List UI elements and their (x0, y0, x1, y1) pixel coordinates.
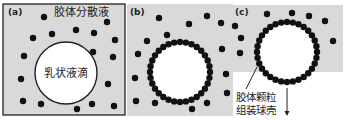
shell-particle (206, 75, 212, 81)
shell-particle (177, 99, 183, 105)
colloid-particle (164, 32, 170, 38)
shell-particle (165, 41, 171, 47)
colloid-particle (111, 103, 117, 109)
colloid-particle (204, 100, 210, 106)
panel-c: (c) 胶体颗粒 组装球壳 (232, 5, 343, 116)
shell-particle (256, 60, 262, 66)
shell-particle (254, 43, 260, 49)
shell-particle (171, 39, 177, 45)
shell-particle (295, 77, 301, 83)
panel-c-tag: (c) (235, 7, 249, 17)
panel-b-tag: (b) (130, 7, 145, 17)
colloid-particle (105, 81, 111, 87)
shell-particle (183, 98, 189, 104)
colloid-particle (237, 50, 243, 56)
colloid-particle (135, 51, 141, 57)
shell-particle (149, 80, 155, 86)
shell-particle (290, 78, 296, 84)
emulsion-droplet-label: 乳状液滴 (44, 66, 88, 80)
shell-particle (290, 19, 296, 25)
colloid-particle (238, 35, 244, 41)
shell-particle (147, 63, 153, 69)
colloid-particle (156, 15, 162, 21)
shell-particle (147, 75, 153, 81)
colloid-particle (110, 54, 116, 60)
colloid-particle (289, 10, 295, 16)
colloid-particle (186, 21, 192, 27)
shell-particle (278, 19, 284, 25)
colloid-particle (224, 90, 230, 96)
colloid-particle (152, 100, 158, 106)
shell-label-line2: 组装球壳 (236, 104, 277, 116)
colloid-particle (132, 75, 138, 81)
shell-particle (254, 49, 260, 55)
diagram-svg: (a) 胶体分散液 乳状液滴 (b) (c) 胶体颗粒 组装球壳 (0, 0, 346, 124)
shell-label-line1: 胶体颗粒 (236, 91, 277, 103)
shell-particle (207, 69, 213, 75)
shell-particle (188, 97, 194, 103)
shell-particle (171, 98, 177, 104)
colloid-particle (306, 13, 312, 19)
colloid-particle (232, 23, 238, 29)
shell-particle (205, 57, 211, 63)
colloid-particle (89, 101, 95, 107)
shell-particle (206, 63, 212, 69)
colloid-particle (41, 14, 47, 20)
colloid-particle (322, 18, 328, 24)
shell-particle (284, 79, 290, 85)
colloid-particle (144, 38, 150, 44)
colloid-particle (133, 98, 139, 104)
colloid-particle (264, 11, 270, 17)
colloid-particle (112, 37, 118, 43)
colloid-particle (74, 106, 80, 112)
shell-particle (313, 43, 319, 49)
colloid-particle (330, 38, 336, 44)
shell-particle (284, 19, 290, 25)
colloid-particle (21, 53, 27, 59)
shell-particle (147, 69, 153, 75)
colloid-particle (223, 71, 229, 77)
colloid-particle (189, 106, 195, 112)
shell-particle (314, 49, 320, 55)
colloid-particle (218, 20, 224, 26)
panel-a: (a) 胶体分散液 乳状液滴 (3, 4, 125, 115)
shell-particle (313, 55, 319, 61)
panel-b: (b) (127, 4, 233, 116)
panel-a-tag: (a) (8, 7, 22, 17)
colloid-particle (20, 98, 26, 104)
colloid-particle (219, 46, 225, 52)
shell-particle (254, 55, 260, 61)
colloid-particle (49, 31, 55, 37)
colloid-particle (91, 30, 97, 36)
figure-canvas: (a) 胶体分散液 乳状液滴 (b) (c) 胶体颗粒 组装球壳 (0, 0, 346, 124)
shell-particle (312, 37, 318, 43)
colloid-particle (73, 27, 79, 33)
shell-particle (183, 39, 189, 45)
down-arrow-icon (285, 88, 290, 116)
shell-particle (272, 21, 278, 27)
colloid-particle (30, 35, 36, 41)
colloid-particle (38, 101, 44, 107)
colloidal-dispersion-label: 胶体分散液 (54, 5, 109, 19)
colloid-particle (18, 76, 24, 82)
shell-particle (177, 39, 183, 45)
colloid-particle (204, 13, 210, 19)
shell-particle (278, 78, 284, 84)
colloid-particle (104, 19, 110, 25)
